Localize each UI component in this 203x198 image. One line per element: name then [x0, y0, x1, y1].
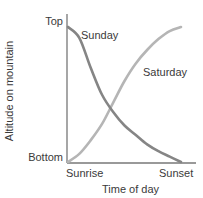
- y-tick-bottom: Bottom: [28, 151, 63, 163]
- y-tick-top: Top: [45, 15, 63, 27]
- y-axis-title: Altitude on mountain: [3, 36, 15, 146]
- x-tick-sunset: Sunset: [159, 167, 193, 179]
- sunday-line: [68, 27, 181, 162]
- series-label-sunday: Sunday: [81, 29, 118, 41]
- saturday-line: [68, 27, 181, 162]
- x-tick-sunrise: Sunrise: [66, 167, 103, 179]
- chart: Top Bottom Sunday Saturday Sunrise Sunse…: [0, 0, 203, 198]
- series-label-saturday: Saturday: [143, 66, 187, 78]
- x-axis-title: Time of day: [102, 183, 159, 195]
